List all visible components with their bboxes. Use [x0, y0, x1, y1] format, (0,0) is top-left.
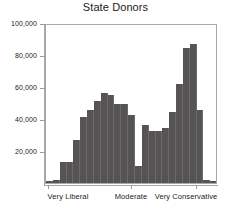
x-tick-mark: [196, 185, 197, 189]
histogram-bar: [53, 180, 60, 183]
histogram-bar: [135, 166, 142, 183]
y-axis-label-80000: 80,000: [15, 52, 37, 59]
chart-container: State Donors 100,000 80,000 60,000 40,00…: [0, 0, 231, 216]
histogram-bar: [176, 84, 183, 183]
histogram-bar: [114, 104, 121, 183]
histogram-bar: [190, 44, 197, 183]
histogram-bar: [87, 110, 94, 183]
histogram-bar: [60, 162, 67, 183]
x-axis-label-very-conservative: Very Conservative: [155, 192, 218, 201]
histogram-bar: [73, 140, 80, 183]
histogram-bar: [46, 181, 53, 183]
histogram-bar: [197, 110, 204, 183]
x-tick-mark: [131, 185, 132, 189]
histogram-bars: [46, 25, 216, 183]
histogram-bar: [142, 125, 149, 183]
y-axis-label-40000: 40,000: [15, 116, 37, 123]
histogram-bar: [156, 131, 163, 183]
histogram-bar: [210, 181, 216, 183]
histogram-bar: [108, 95, 115, 183]
histogram-bar: [169, 112, 176, 183]
plot-area: [45, 24, 217, 184]
y-axis-label-60000: 60,000: [15, 84, 37, 91]
histogram-bar: [121, 104, 128, 183]
x-axis-label-very-liberal: Very Liberal: [48, 192, 89, 201]
x-axis-label-moderate: Moderate: [115, 192, 148, 201]
histogram-bar: [149, 131, 156, 183]
histogram-bar: [183, 48, 190, 183]
chart-title: State Donors: [0, 1, 231, 13]
histogram-bar: [162, 128, 169, 183]
x-tick-mark: [48, 185, 49, 189]
histogram-bar: [67, 162, 74, 183]
y-axis-label-20000: 20,000: [15, 148, 37, 155]
y-axis-label-100000: 100,000: [11, 20, 37, 27]
histogram-bar: [80, 117, 87, 183]
histogram-bar: [101, 93, 108, 183]
histogram-bar: [128, 115, 135, 183]
histogram-bar: [94, 101, 101, 183]
histogram-bar: [203, 180, 210, 183]
